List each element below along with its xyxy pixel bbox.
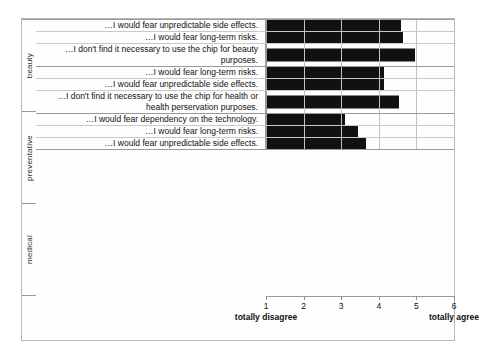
bar-label: …I would fear unpredictable side effects…	[36, 138, 266, 149]
category-label-medical: medical	[25, 235, 34, 264]
gridline	[266, 138, 267, 149]
gridline	[304, 20, 305, 31]
chart-figure: beauty preventative medical …I would fea…	[21, 18, 455, 341]
gridline	[304, 91, 305, 113]
bar-track	[266, 79, 454, 90]
category-label-beauty: beauty	[25, 53, 34, 78]
axis-tick-label: 1	[264, 301, 269, 311]
gridline	[266, 126, 267, 137]
bar	[266, 32, 403, 43]
table-row: …I would fear long-term risks.	[36, 32, 454, 44]
axis-tick-mark	[379, 296, 380, 300]
bar-track	[266, 126, 454, 137]
category-cell-preventative: preventative	[22, 112, 36, 204]
category-label-preventative: preventative	[25, 135, 34, 181]
gridline	[379, 32, 380, 43]
table-row: …I don't find it necessary to use the ch…	[36, 91, 454, 114]
scale-anchor-low: totally disagree	[235, 312, 297, 322]
bar-track	[266, 20, 454, 31]
bar-label: …I would fear unpredictable side effects…	[36, 79, 266, 90]
gridline	[416, 20, 417, 31]
gridline	[341, 67, 342, 78]
gridline	[341, 32, 342, 43]
gridline	[416, 114, 417, 125]
axis-tick-label: 4	[376, 301, 381, 311]
bar-track	[266, 138, 454, 149]
chart-plot-body: beauty preventative medical …I would fea…	[22, 19, 454, 296]
bar-label: …I would fear long-term risks.	[36, 67, 266, 78]
gridline	[266, 44, 267, 66]
gridline	[341, 91, 342, 113]
gridline	[304, 138, 305, 149]
table-row: …I would fear unpredictable side effects…	[36, 79, 454, 91]
axis-tick-mark	[416, 296, 417, 300]
bar	[266, 79, 384, 90]
bar-label: …I would fear dependency on the technolo…	[36, 114, 266, 125]
table-row: …I would fear long-term risks.	[36, 126, 454, 138]
gridline	[266, 32, 267, 43]
gridline	[266, 67, 267, 78]
gridline	[379, 91, 380, 113]
bar-label: …I would fear long-term risks.	[36, 126, 266, 137]
bar-track	[266, 67, 454, 78]
gridline	[416, 126, 417, 137]
gridline	[379, 20, 380, 31]
gridline	[416, 91, 417, 113]
category-cell-medical: medical	[22, 204, 36, 296]
axis-tick-label: 3	[339, 301, 344, 311]
gridline	[379, 44, 380, 66]
gridline	[341, 20, 342, 31]
gridline	[416, 79, 417, 90]
gridline	[341, 138, 342, 149]
scale-anchor-high: totally agree	[429, 312, 479, 322]
bar-label: …I don't find it necessary to use the ch…	[36, 91, 266, 113]
bar-label: …I don't find it necessary to use the ch…	[36, 44, 266, 66]
axis-tick-mark	[341, 296, 342, 300]
gridline	[416, 32, 417, 43]
gridline	[416, 67, 417, 78]
bar-track	[266, 44, 454, 66]
bar-track	[266, 32, 454, 43]
chart-rows: …I would fear unpredictable side effects…	[36, 19, 454, 296]
table-row: …I would fear unpredictable side effects…	[36, 19, 454, 32]
gridline	[266, 79, 267, 90]
bar-label: …I would fear long-term risks.	[36, 32, 266, 43]
axis-tick-mark	[304, 296, 305, 300]
table-row: …I would fear dependency on the technolo…	[36, 114, 454, 126]
gridline	[304, 79, 305, 90]
gridline	[304, 44, 305, 66]
bar	[266, 67, 384, 78]
gridline	[379, 79, 380, 90]
bar-track	[266, 114, 454, 125]
bar	[266, 138, 366, 149]
axis-tick-label: 2	[301, 301, 306, 311]
category-cell-beauty: beauty	[22, 19, 36, 112]
gridline	[379, 67, 380, 78]
table-row: …I would fear unpredictable side effects…	[36, 138, 454, 150]
bar	[266, 20, 401, 31]
bar	[266, 126, 358, 137]
value-axis: 123456totally disagreetotally agree	[36, 296, 454, 340]
axis-tick-mark	[266, 296, 267, 300]
table-row: …I don't find it necessary to use the ch…	[36, 44, 454, 67]
gridline	[341, 114, 342, 125]
bar	[266, 114, 345, 125]
gridline	[379, 138, 380, 149]
gridline	[341, 44, 342, 66]
gridline	[266, 20, 267, 31]
category-axis-strip: beauty preventative medical	[22, 19, 36, 296]
axis-tick-label: 6	[452, 301, 457, 311]
gridline	[266, 91, 267, 113]
gridline	[416, 138, 417, 149]
axis-tick-container: 123456totally disagreetotally agree	[266, 296, 454, 340]
gridline	[304, 32, 305, 43]
table-row: …I would fear long-term risks.	[36, 67, 454, 79]
gridline	[304, 114, 305, 125]
gridline	[379, 114, 380, 125]
gridline	[304, 67, 305, 78]
gridline	[266, 114, 267, 125]
gridline	[341, 126, 342, 137]
gridline	[379, 126, 380, 137]
axis-tick-label: 5	[414, 301, 419, 311]
gridline	[416, 44, 417, 66]
